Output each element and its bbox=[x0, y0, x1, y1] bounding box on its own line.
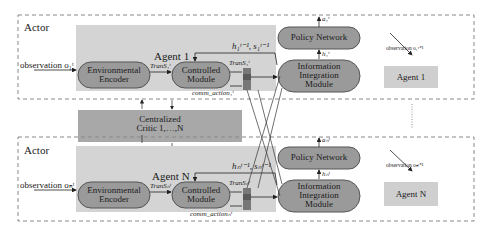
trans-out-bottom: TranSₙᵗ bbox=[229, 180, 250, 187]
info-integration-label-top: Information Integration Module bbox=[278, 62, 360, 89]
agent-label-bottom: Agent N bbox=[152, 171, 190, 182]
hidden-out-bottom: hₙᵗ bbox=[322, 171, 330, 178]
action-out-bottom: aₙᵗ bbox=[322, 137, 330, 144]
policy-network-label-bottom: Policy Network bbox=[278, 153, 360, 162]
trans-out-top: TranS₁ᵗ bbox=[229, 60, 249, 67]
hidden-prev-top: h₁ᵗ⁻¹, s₁ᵗ⁻¹ bbox=[232, 42, 269, 51]
actor-title-bottom: Actor bbox=[24, 145, 49, 156]
comm-action-top: comm_action₁ᵗ bbox=[192, 90, 233, 97]
env-encoder-label-top: Environmental Encoder bbox=[78, 66, 150, 84]
comm-action-bottom: comm_actionₙᵗ bbox=[190, 211, 232, 218]
trans-in-bottom: TranSₙᵗ bbox=[150, 183, 171, 190]
controlled-module-label-top: Controlled Module bbox=[172, 66, 230, 84]
observation-label-bottom: observation oₙᵗ bbox=[20, 181, 74, 190]
env-agent-label-top: Agent 1 bbox=[384, 73, 438, 82]
env-encoder-label-bottom: Environmental Encoder bbox=[78, 186, 150, 204]
info-integration-label-bottom: Information Integration Module bbox=[278, 182, 360, 209]
actor-title-top: Actor bbox=[24, 22, 49, 33]
observation-label-top: observation o₁ᵗ bbox=[20, 61, 74, 70]
hidden-out-top: h₁ᵗ bbox=[322, 51, 329, 58]
next-observation-top: observation o₁ᵗ⁺¹ bbox=[386, 46, 423, 52]
trans-in-top: TranS₁ᵗ bbox=[150, 63, 170, 70]
hidden-prev-bottom: hₙᵗ⁻¹, sₙᵗ⁻¹ bbox=[232, 162, 271, 171]
env-agent-label-bottom: Agent N bbox=[384, 190, 438, 199]
agent-label-top: Agent 1 bbox=[154, 51, 189, 62]
critic-label: Centralized Critic 1,…,N bbox=[78, 115, 242, 133]
action-out-top: a₁ᵗ bbox=[322, 16, 329, 23]
policy-network-label-top: Policy Network bbox=[278, 33, 360, 42]
next-observation-bottom: observation oₙᵗ⁺¹ bbox=[386, 163, 424, 169]
controlled-module-label-bottom: Controlled Module bbox=[172, 186, 230, 204]
